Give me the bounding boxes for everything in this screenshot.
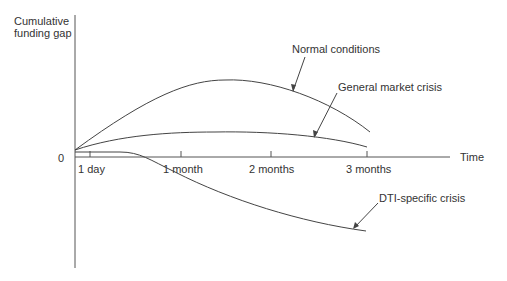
y-axis-label: Cumulative funding gap	[14, 15, 84, 39]
label-normal-conditions: Normal conditions	[292, 43, 380, 55]
x-axis-label: Time	[460, 151, 484, 163]
label-general-market-crisis: General market crisis	[338, 81, 442, 93]
arrow-dti	[354, 203, 378, 228]
tick-label-1-month: 1 month	[163, 163, 203, 175]
curve-general-market-crisis	[75, 132, 367, 150]
tick-label-2-months: 2 months	[249, 163, 294, 175]
diagram-canvas	[0, 0, 507, 281]
arrow-general	[315, 93, 337, 136]
curve-dti-specific-crisis	[75, 152, 366, 231]
label-dti-specific-crisis: DTI-specific crisis	[379, 192, 465, 204]
tick-label-3-months: 3 months	[346, 163, 391, 175]
tick-label-1-day: 1 day	[78, 163, 105, 175]
zero-label: 0	[58, 152, 64, 164]
